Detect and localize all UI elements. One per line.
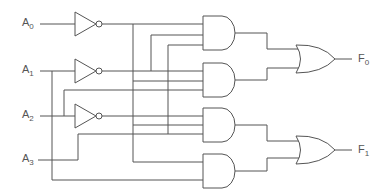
not-gate-0 [75, 12, 102, 36]
logic-circuit-diagram [0, 0, 387, 194]
and-gate-2 [203, 63, 235, 97]
not-gate-1 [75, 59, 102, 83]
and-gate-3 [203, 108, 235, 142]
or-gate-0 [296, 45, 335, 73]
not-gate-2 [75, 104, 102, 128]
input-label-a1: A1 [22, 64, 34, 78]
and-gate-4 [203, 154, 235, 188]
input-label-a0: A0 [22, 17, 34, 31]
input-label-a2: A2 [22, 109, 34, 123]
or-gate-1 [296, 136, 335, 164]
and-gate-1 [203, 16, 235, 50]
output-label-f0: F0 [358, 53, 369, 67]
input-label-a3: A3 [22, 153, 34, 167]
output-label-f1: F1 [358, 144, 369, 158]
